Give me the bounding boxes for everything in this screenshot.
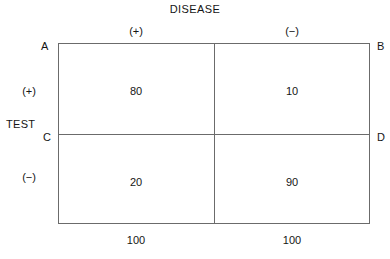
- vertex-label-d: D: [377, 132, 385, 143]
- contingency-table-diagram: DISEASE (+) (−) TEST (+) (−) A B C D 80 …: [0, 0, 390, 259]
- cell-false-positive: 10: [214, 86, 370, 97]
- vertex-label-c: C: [43, 132, 51, 143]
- column-header-disease-negative: (−): [214, 26, 370, 37]
- diagram-title: DISEASE: [0, 4, 390, 15]
- row-header-test-negative: (−): [8, 172, 50, 183]
- vertex-label-b: B: [377, 41, 384, 52]
- row-axis-label-test: TEST: [6, 119, 35, 130]
- cell-true-positive: 80: [58, 86, 214, 97]
- cell-false-negative: 20: [58, 177, 214, 188]
- vertex-label-a: A: [41, 41, 48, 52]
- cell-true-negative: 90: [214, 177, 370, 188]
- column-header-disease-positive: (+): [58, 26, 214, 37]
- column-total-disease-positive: 100: [58, 235, 214, 246]
- column-total-disease-negative: 100: [214, 235, 370, 246]
- row-header-test-positive: (+): [8, 86, 50, 97]
- table-row-divider: [58, 134, 370, 135]
